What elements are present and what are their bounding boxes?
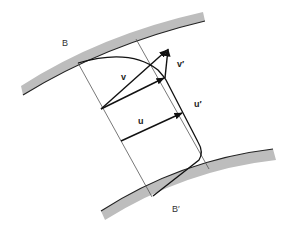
upper-boundary-edge (23, 21, 205, 95)
label-vector-v-prime: v′ (177, 59, 184, 69)
label-vector-u-prime: u′ (194, 99, 202, 109)
left-section-line (78, 63, 152, 197)
lower-boundary (101, 149, 276, 220)
vector-v-prime (165, 49, 168, 78)
label-lower-boundary: B′ (172, 204, 180, 214)
label-vector-v: v (121, 72, 126, 82)
vector-u (121, 113, 182, 141)
upper-boundary (21, 12, 205, 95)
vector-u-upper (101, 78, 164, 109)
upper-boundary-fill (21, 12, 205, 95)
label-upper-boundary: B (62, 38, 68, 48)
flow-diagram: B B′ v v′ u u′ (0, 0, 288, 252)
label-vector-u: u (138, 116, 144, 126)
lower-boundary-fill (101, 149, 276, 220)
